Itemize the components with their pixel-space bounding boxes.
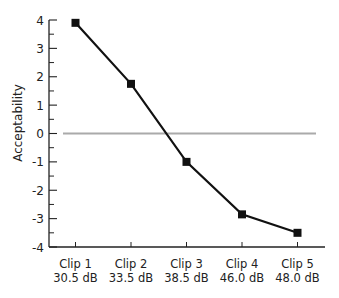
y-tick-label: 0 <box>36 127 44 141</box>
x-category-sublabel: 30.5 dB <box>53 271 98 285</box>
x-axis: Clip 130.5 dBClip 233.5 dBClip 338.5 dBC… <box>49 242 325 285</box>
y-tick-label: 3 <box>36 42 44 56</box>
data-point-marker <box>127 80 135 88</box>
x-category-label: Clip 3 <box>170 257 203 271</box>
series-line <box>76 23 298 233</box>
data-point-marker <box>183 158 191 166</box>
data-point-marker <box>294 229 302 237</box>
x-category-sublabel: 33.5 dB <box>109 271 154 285</box>
acceptability-line-chart: -4-3-2-101234 Clip 130.5 dBClip 233.5 dB… <box>0 0 339 298</box>
x-category-sublabel: 46.0 dB <box>220 271 265 285</box>
data-point-marker <box>72 19 80 27</box>
y-tick-label: 1 <box>36 99 44 113</box>
x-category-sublabel: 38.5 dB <box>164 271 209 285</box>
x-category-label: Clip 5 <box>281 257 314 271</box>
y-tick-label: -3 <box>32 212 44 226</box>
x-category-label: Clip 4 <box>226 257 259 271</box>
y-tick-label: 4 <box>36 14 44 28</box>
y-axis-title: Acceptability <box>11 84 25 162</box>
y-tick-label: -4 <box>32 241 44 255</box>
x-category-label: Clip 1 <box>59 257 92 271</box>
data-series <box>72 19 302 237</box>
data-point-marker <box>238 210 246 218</box>
y-tick-label: 2 <box>36 70 44 84</box>
x-category-sublabel: 48.0 dB <box>275 271 320 285</box>
y-tick-label: -1 <box>32 155 44 169</box>
y-tick-label: -2 <box>32 184 44 198</box>
y-axis: -4-3-2-101234 <box>32 14 57 255</box>
x-category-label: Clip 2 <box>115 257 148 271</box>
